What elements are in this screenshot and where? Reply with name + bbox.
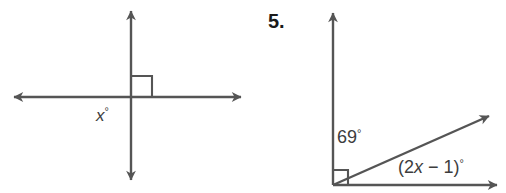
figure-right: 69° (2x − 1)° xyxy=(333,13,497,185)
angle-69-label: 69° xyxy=(337,127,361,147)
figure-left: x° xyxy=(14,11,241,180)
geometry-figures-svg: x° 5. 69° (2x − 1)° xyxy=(0,0,506,193)
problem-number: 5. xyxy=(268,10,285,32)
angle-expression-label: (2x − 1)° xyxy=(398,157,464,177)
right-angle-mark-left xyxy=(131,76,152,97)
diagram-stage: x° 5. 69° (2x − 1)° xyxy=(0,0,506,193)
angle-x-label: x° xyxy=(95,105,109,125)
